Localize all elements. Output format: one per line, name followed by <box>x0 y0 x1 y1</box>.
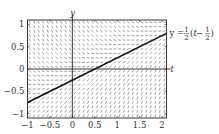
slope-segment <box>46 89 49 90</box>
slope-segment <box>96 70 99 72</box>
slope-segment <box>127 61 129 63</box>
slope-segment <box>105 35 107 37</box>
slope-segment <box>96 21 98 24</box>
slope-segment <box>164 74 165 77</box>
slope-segment <box>119 110 120 113</box>
annotation-prefix: y = <box>169 28 185 38</box>
y-tick-label: 0.5 <box>11 42 25 52</box>
slope-segment <box>141 105 142 108</box>
slope-segment <box>65 97 67 99</box>
slope-segment <box>141 61 143 63</box>
slope-segment <box>159 74 160 77</box>
slope-segment <box>105 26 107 28</box>
slope-segment <box>118 26 120 28</box>
slope-segment <box>155 105 156 108</box>
slope-segment <box>164 97 165 100</box>
slope-segment <box>92 92 94 95</box>
slope-segment <box>87 110 88 113</box>
slope-segment <box>46 75 49 76</box>
slope-segment <box>149 22 152 23</box>
slope-segment <box>52 25 53 28</box>
slope-segment <box>132 83 133 86</box>
slope-segment <box>105 83 107 85</box>
slope-segment <box>128 88 129 91</box>
slope-segment <box>105 66 108 68</box>
slope-segment <box>96 101 97 104</box>
slope-segment <box>100 30 102 32</box>
slope-segment <box>46 66 49 68</box>
slope-segment <box>141 70 143 73</box>
slope-segment <box>29 106 31 108</box>
slope-segment <box>96 75 98 77</box>
slope-segment <box>43 21 44 24</box>
slope-segment <box>105 44 108 45</box>
slope-segment <box>34 39 35 42</box>
slope-segment <box>51 93 54 95</box>
slope-segment <box>51 43 53 46</box>
slope-segment <box>56 114 57 117</box>
slope-segment <box>78 30 80 33</box>
slope-segment <box>114 101 115 104</box>
slope-segment <box>150 101 151 104</box>
slope-segment <box>163 43 165 45</box>
slope-segment <box>154 52 156 54</box>
slope-segment <box>51 84 54 85</box>
slope-segment <box>123 97 124 100</box>
slope-segment <box>28 84 31 85</box>
slope-segment <box>29 25 30 28</box>
slope-segment <box>55 71 58 72</box>
slope-segment <box>60 97 62 99</box>
slope-segment <box>52 30 53 33</box>
slope-segment <box>137 70 139 73</box>
slope-segment <box>141 83 142 86</box>
slope-segment <box>78 71 81 72</box>
slope-segment <box>136 57 138 59</box>
slope-segment <box>159 61 161 64</box>
y-tick-label: 0 <box>19 64 24 74</box>
slope-segment <box>146 97 147 100</box>
slope-segment <box>87 114 88 117</box>
slope-segment <box>132 114 133 117</box>
slope-segment <box>74 25 75 28</box>
slope-segment <box>131 31 134 32</box>
slope-segment <box>114 62 117 64</box>
slope-segment <box>74 21 75 24</box>
slope-segment <box>159 39 162 41</box>
x-tick-label: 0 <box>70 120 75 130</box>
slope-segment <box>141 57 143 59</box>
slope-segment <box>87 53 90 54</box>
slope-segment <box>42 66 44 68</box>
slope-segment <box>105 97 106 100</box>
slope-segment <box>140 26 143 27</box>
slope-segment <box>29 39 30 42</box>
slope-segment <box>60 80 63 81</box>
slope-segment <box>73 75 76 76</box>
slope-segment <box>91 79 93 81</box>
slope-segment <box>109 30 111 32</box>
slope-segment <box>91 44 94 46</box>
slope-segment <box>136 31 139 32</box>
slope-segment <box>37 70 40 72</box>
slope-segment <box>128 105 129 108</box>
annotation-frac1-denominator: 2 <box>184 34 188 42</box>
slope-segment <box>96 88 98 90</box>
slope-segment <box>100 49 103 50</box>
slope-segment <box>51 48 53 50</box>
slope-segment <box>150 65 152 68</box>
slope-segment <box>69 75 72 76</box>
slope-segment <box>118 53 121 54</box>
slope-segment <box>150 52 152 54</box>
slope-segment <box>56 43 58 45</box>
slope-segment <box>33 70 35 72</box>
slope-segment <box>29 48 30 51</box>
slope-segment <box>141 97 142 100</box>
slope-segment <box>64 62 67 63</box>
slope-segment <box>114 97 115 100</box>
slope-segment <box>92 114 93 117</box>
slope-segment <box>145 26 148 27</box>
slope-segment <box>92 106 93 109</box>
slope-segment <box>56 106 58 108</box>
slope-segment <box>87 92 89 94</box>
slope-segment <box>69 43 71 45</box>
slope-segment <box>137 92 138 95</box>
